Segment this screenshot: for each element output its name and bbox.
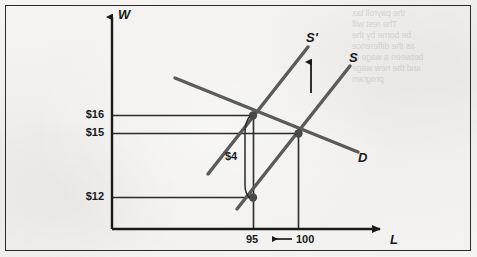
x-axis-label: L xyxy=(390,232,398,247)
supply-curve-label: S xyxy=(349,50,358,65)
supply-shifted-curve-line xyxy=(208,47,308,174)
wage-gap-label: $4 xyxy=(225,150,237,162)
demand-curve-label: D xyxy=(358,150,367,165)
y-tick-label-16: $16 xyxy=(62,108,104,120)
reference-lines-vertical xyxy=(254,115,299,229)
y-tick-label-15: $15 xyxy=(62,126,104,138)
x-tick-label-100: 100 xyxy=(296,233,314,245)
x-tick-label-95: 95 xyxy=(246,233,258,245)
wage-gap-brace xyxy=(245,116,250,198)
y-tick-label-12: $12 xyxy=(62,190,104,202)
supply-shifted-curve-label: S' xyxy=(306,30,318,45)
economics-figure: the payroll tax The rest will be borne b… xyxy=(0,0,477,257)
reference-lines-horizontal xyxy=(112,116,298,198)
y-axis-label: W xyxy=(118,7,130,22)
